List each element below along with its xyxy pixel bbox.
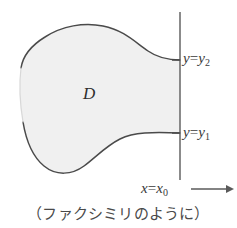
label-x0-subscript: 0	[163, 187, 168, 198]
label-x0-var: x	[141, 180, 148, 196]
figure-container: D y=y2 y=y1 x=x0 （ファクシミリのように）	[0, 0, 237, 228]
label-y1-var: y	[183, 124, 190, 140]
figure-caption: （ファクシミリのように）	[0, 202, 237, 223]
region-label-d: D	[83, 84, 95, 104]
label-y1-subscript: 1	[205, 131, 210, 142]
label-x0-op: =	[148, 180, 156, 196]
direction-arrow-icon	[191, 185, 234, 193]
label-x-equals-x0: x=x0	[141, 180, 168, 198]
label-y2-var: y	[183, 50, 190, 66]
label-y1-op: =	[190, 124, 198, 140]
label-y2-base: y	[198, 50, 205, 66]
figure-graphic	[0, 0, 237, 228]
label-y2-subscript: 2	[205, 57, 210, 68]
label-y1-base: y	[198, 124, 205, 140]
label-y-equals-y1: y=y1	[183, 124, 210, 142]
label-y-equals-y2: y=y2	[183, 50, 210, 68]
region-d-shape	[20, 24, 180, 173]
label-y2-op: =	[190, 50, 198, 66]
label-x0-base: x	[156, 180, 163, 196]
